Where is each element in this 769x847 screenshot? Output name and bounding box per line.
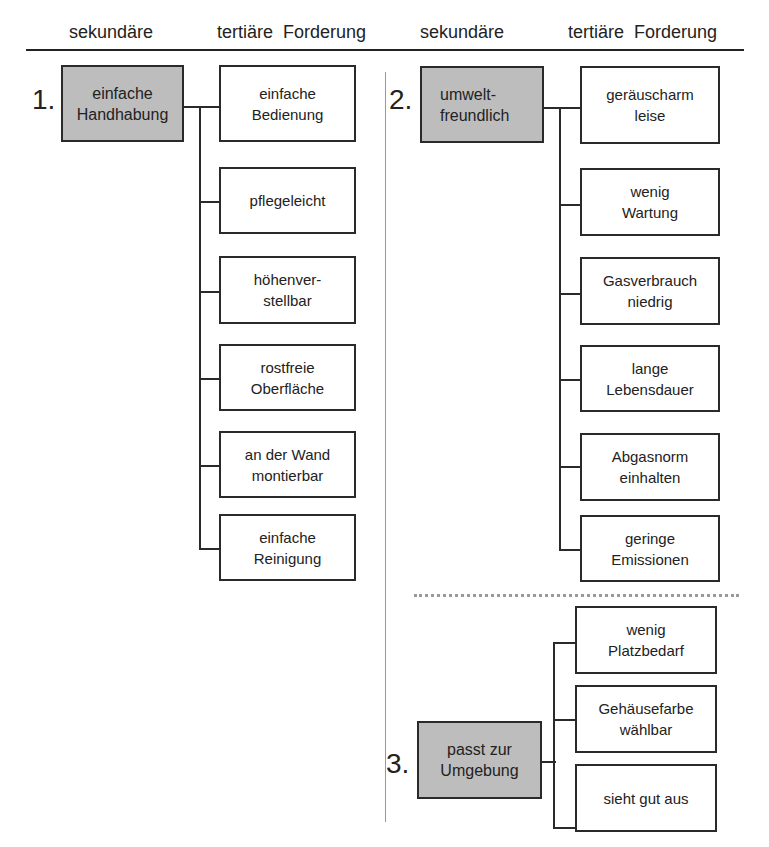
tertiary-label: geräuscharm leise — [606, 84, 694, 126]
tertiary-label: pflegeleicht — [250, 190, 326, 211]
group-1-tertiary-box: einfache Bedienung — [219, 65, 356, 142]
group-2-tertiary-box: Gasverbrauch niedrig — [580, 257, 720, 325]
group-3-secondary-label: passt zur Umgebung — [440, 739, 518, 781]
tertiary-label: rostfreie Oberfläche — [251, 357, 324, 399]
tertiary-label: sieht gut aus — [603, 788, 688, 809]
connector-trunk — [559, 107, 561, 551]
connector — [199, 201, 220, 203]
tertiary-label: einfache Reinigung — [254, 527, 322, 569]
tertiary-label: Abgasnorm einhalten — [612, 446, 689, 488]
group-1-number: 1. — [32, 84, 55, 116]
connector-trunk — [553, 642, 555, 829]
tertiary-label: einfache Bedienung — [252, 83, 324, 125]
connector — [559, 549, 581, 551]
group-3-tertiary-box: Gehäusefarbe wählbar — [575, 685, 717, 753]
group-1-tertiary-box: einfache Reinigung — [219, 514, 356, 581]
header-left-secondary: sekundäre — [69, 22, 153, 43]
connector — [553, 642, 576, 644]
group-2-secondary-label: umwelt- freundlich — [440, 84, 509, 126]
group-2-tertiary-box: lange Lebensdauer — [580, 345, 720, 412]
tertiary-label: wenig Wartung — [622, 181, 678, 223]
group-2-tertiary-box: wenig Wartung — [580, 168, 720, 236]
tertiary-label: wenig Platzbedarf — [608, 619, 684, 661]
group-3-tertiary-box: wenig Platzbedarf — [575, 606, 717, 674]
connector — [559, 204, 581, 206]
tertiary-label: Gehäusefarbe wählbar — [598, 698, 693, 740]
connector-trunk — [199, 106, 201, 550]
group-1-secondary-label: einfache Handhabung — [77, 83, 169, 125]
group-3-number: 3. — [386, 748, 409, 780]
group-3-secondary-box: passt zur Umgebung — [417, 721, 542, 799]
group-1-secondary-box: einfache Handhabung — [61, 65, 184, 142]
connector — [199, 465, 220, 467]
connector — [199, 548, 220, 550]
group-2-secondary-box: umwelt- freundlich — [420, 66, 544, 143]
group-1-tertiary-box: rostfreie Oberfläche — [219, 344, 356, 411]
connector — [199, 291, 220, 293]
header-rule — [26, 49, 744, 51]
tertiary-label: Gasverbrauch niedrig — [603, 270, 697, 312]
tertiary-label: lange Lebensdauer — [606, 358, 694, 400]
connector — [184, 106, 220, 108]
connector — [559, 379, 581, 381]
connector — [544, 107, 581, 109]
tertiary-label: geringe Emissionen — [611, 528, 689, 570]
group-1-tertiary-box: pflegeleicht — [219, 167, 356, 234]
connector — [199, 378, 220, 380]
header-left-tertiary: tertiäre Forderung — [217, 22, 366, 43]
group-1-tertiary-box: höhenver- stellbar — [219, 256, 356, 324]
column-divider — [385, 72, 386, 822]
connector — [559, 466, 581, 468]
group-2-number: 2. — [389, 84, 412, 116]
header-right-tertiary: tertiäre Forderung — [568, 22, 717, 43]
tertiary-label: an der Wand montierbar — [245, 444, 330, 486]
group-2-tertiary-box: geräuscharm leise — [580, 66, 720, 144]
group-1-tertiary-box: an der Wand montierbar — [219, 431, 356, 498]
group-separator — [414, 594, 739, 597]
group-3-tertiary-box: sieht gut aus — [575, 764, 717, 832]
connector — [553, 719, 576, 721]
group-2-tertiary-box: Abgasnorm einhalten — [580, 433, 720, 501]
connector — [559, 293, 581, 295]
tertiary-label: höhenver- stellbar — [254, 269, 322, 311]
connector — [553, 827, 576, 829]
group-2-tertiary-box: geringe Emissionen — [580, 515, 720, 582]
header-right-secondary: sekundäre — [420, 22, 504, 43]
